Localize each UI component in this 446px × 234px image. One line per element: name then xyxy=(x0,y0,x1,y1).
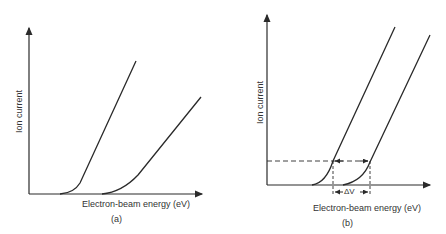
panel-a-caption: (a) xyxy=(111,214,122,224)
panel-b-x-label: Electron-beam energy (eV) xyxy=(313,203,421,213)
panel-b xyxy=(267,15,430,195)
delta-v-label: ΔV xyxy=(344,187,355,196)
panel-a-y-label: Ion current xyxy=(14,90,24,133)
panel-a xyxy=(29,28,202,194)
panel-a-curve-1 xyxy=(60,61,136,194)
panel-b-caption: (b) xyxy=(342,218,353,228)
panel-a-x-label: Electron-beam energy (eV) xyxy=(82,199,190,209)
panel-a-curve-2 xyxy=(102,97,201,194)
panel-b-y-label: Ion current xyxy=(255,81,265,124)
diagram-canvas xyxy=(0,0,446,234)
